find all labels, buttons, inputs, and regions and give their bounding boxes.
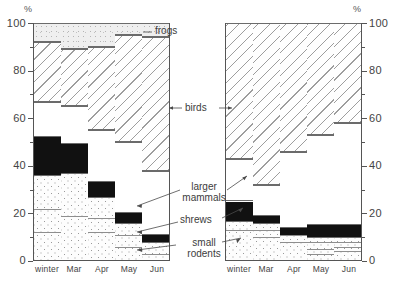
segment-larger-mammals-may [115, 142, 142, 213]
segment-larger-mammals-jun [334, 123, 361, 225]
bar-subdivision-may-1 [115, 235, 142, 236]
bar-subdivision-jun-0 [334, 251, 361, 252]
right-axis-unit-label: % [353, 4, 361, 14]
right-ytick-10 [362, 237, 365, 238]
segment-small-rodents-may [115, 223, 142, 261]
bar-left-jun [142, 23, 169, 261]
segment-birds-winter [34, 42, 61, 102]
bar-subdivision-apr-1 [88, 218, 115, 219]
right-ytick-20 [362, 213, 367, 214]
left-xlabel-jun: Jun [143, 264, 171, 274]
segment-small-rodents-mar [253, 223, 280, 261]
bar-subdivision-mar-1 [253, 230, 280, 231]
segment-larger-mammals-may [307, 135, 334, 225]
right-ytick-90 [362, 47, 365, 48]
segment-shrews-may [307, 225, 334, 237]
segment-frogs-apr [88, 23, 115, 47]
right-ytick-label-20: 20 [369, 207, 393, 219]
bar-subdivision-jun-2 [334, 242, 361, 243]
segment-birds-may [307, 23, 334, 135]
bar-left-may [115, 23, 142, 261]
segment-shrews-mar [253, 216, 280, 223]
bar-subdivision-winter-0 [34, 232, 61, 233]
right-ytick-label-40: 40 [369, 159, 393, 171]
left-ytick-0 [28, 261, 33, 262]
segment-small-rodents-apr [88, 197, 115, 261]
bar-subdivision-mar-0 [61, 216, 88, 217]
bar-subdivision-apr-1 [280, 235, 307, 236]
segment-small-rodents-jun [334, 237, 361, 261]
annotation-small-rodents-line1: small [180, 237, 228, 248]
segment-small-rodents-winter [34, 175, 61, 261]
bar-right-may [307, 23, 334, 261]
left-ytick-label-0: 0 [0, 254, 26, 266]
bar-subdivision-may-0 [307, 254, 334, 255]
left-ytick-label-20: 20 [0, 207, 26, 219]
bar-subdivision-apr-0 [88, 232, 115, 233]
segment-birds-may [115, 35, 142, 142]
right-plot-area [225, 23, 362, 261]
segment-small-rodents-apr [280, 235, 307, 261]
segment-birds-jun [142, 37, 169, 170]
segment-shrews-mar [61, 144, 88, 173]
bar-right-winter [226, 23, 253, 261]
right-ytick-40 [362, 166, 367, 167]
bar-subdivision-winter-0 [226, 230, 253, 231]
left-plot-area [33, 23, 170, 261]
annotation-larger-mammals-line1: larger [180, 181, 228, 192]
right-ytick-label-60: 60 [369, 112, 393, 124]
bar-right-mar [253, 23, 280, 261]
bar-right-apr [280, 23, 307, 261]
segment-shrews-jun [334, 225, 361, 237]
annotation-shrews: shrews [180, 214, 212, 225]
segment-small-rodents-winter [226, 221, 253, 261]
right-xlabel-may: May [307, 264, 335, 274]
segment-shrews-winter [34, 137, 61, 175]
left-xlabel-mar: Mar [60, 264, 88, 274]
bar-right-jun [334, 23, 361, 261]
right-ytick-100 [362, 23, 367, 24]
right-ytick-label-0: 0 [369, 254, 393, 266]
segment-shrews-winter [226, 202, 253, 221]
left-xlabel-apr: Apr [88, 264, 116, 274]
segment-frogs-winter [34, 23, 61, 42]
annotation-small-rodents-line2: rodents [180, 248, 228, 259]
bar-left-apr [88, 23, 115, 261]
right-ytick-30 [362, 190, 365, 191]
plot-right-baseline [226, 260, 361, 261]
bar-left-mar [61, 23, 88, 261]
segment-shrews-apr [88, 182, 115, 196]
segment-larger-mammals-mar [61, 106, 88, 144]
segment-birds-mar [61, 49, 88, 106]
segment-larger-mammals-apr [280, 152, 307, 228]
plot-left-baseline [34, 260, 169, 261]
left-ytick-label-80: 80 [0, 64, 26, 76]
left-axis-unit-label: % [24, 4, 32, 14]
left-xlabel-winter: winter [33, 264, 61, 274]
right-ytick-80 [362, 71, 367, 72]
bar-subdivision-jun-0 [142, 254, 169, 255]
segment-larger-mammals-jun [142, 171, 169, 235]
right-ytick-label-100: 100 [369, 17, 393, 29]
segment-frogs-may [115, 23, 142, 35]
segment-larger-mammals-winter [226, 159, 253, 202]
segment-small-rodents-mar [61, 173, 88, 261]
segment-birds-jun [334, 23, 361, 123]
annotation-small-rodents: small rodents [180, 237, 228, 259]
annotation-larger-mammals-line2: mammals [180, 192, 228, 203]
segment-larger-mammals-mar [253, 185, 280, 216]
annotation-larger-mammals: larger mammals [180, 181, 228, 203]
left-chart-panel: % 100 80 60 40 20 0 winter Mar Apr May J… [0, 0, 193, 298]
bar-subdivision-apr-0 [280, 242, 307, 243]
left-ytick-label-100: 100 [0, 17, 26, 29]
bar-subdivision-may-0 [115, 247, 142, 248]
segment-shrews-may [115, 213, 142, 223]
right-xlabel-mar: Mar [252, 264, 280, 274]
segment-birds-mar [253, 23, 280, 185]
segment-small-rodents-jun [142, 242, 169, 261]
bar-subdivision-jun-1 [334, 247, 361, 248]
segment-shrews-apr [280, 228, 307, 235]
annotation-frogs: frogs [155, 25, 177, 36]
right-ytick-0 [362, 261, 367, 262]
